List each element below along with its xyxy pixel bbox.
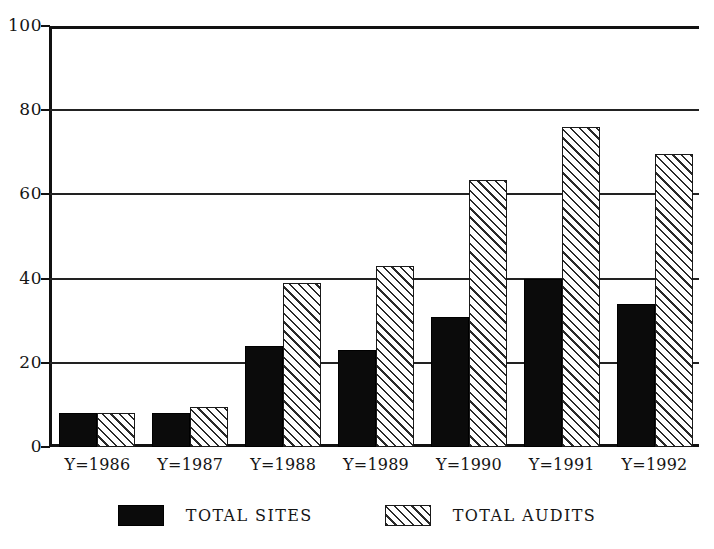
y-axis-tick-labels: 020406080100 (0, 0, 42, 549)
legend-label: TOTAL SITES (186, 506, 313, 525)
bar-group (59, 26, 135, 447)
legend-swatch-hatch-icon (385, 505, 431, 526)
x-tick-label: Y=1987 (140, 455, 240, 474)
legend-item[interactable]: TOTAL AUDITS (385, 505, 596, 526)
plot-area (49, 26, 699, 447)
y-tick-label: 20 (2, 354, 42, 371)
x-tick-label: Y=1988 (233, 455, 333, 474)
legend-swatch-solid-icon (118, 505, 164, 526)
legend-item[interactable]: TOTAL SITES (118, 505, 313, 526)
bar-total-audits[interactable] (469, 180, 507, 447)
bar-chart: 020406080100 Y=1986Y=1987Y=1988Y=1989Y=1… (0, 0, 714, 549)
bar-group (245, 26, 321, 447)
bar-total-audits[interactable] (376, 266, 414, 447)
bar-group (338, 26, 414, 447)
legend-label: TOTAL AUDITS (453, 506, 596, 525)
bar-group (617, 26, 693, 447)
bar-group (524, 26, 600, 447)
bar-group (431, 26, 507, 447)
bar-total-audits[interactable] (190, 407, 228, 447)
y-tick-label: 80 (2, 101, 42, 118)
bar-total-sites[interactable] (152, 413, 190, 447)
x-tick-label: Y=1992 (605, 455, 705, 474)
bar-total-sites[interactable] (245, 346, 283, 447)
bar-total-sites[interactable] (431, 317, 469, 448)
bar-total-sites[interactable] (59, 413, 97, 447)
y-tick-label: 40 (2, 270, 42, 287)
x-tick-label: Y=1989 (326, 455, 426, 474)
y-tick-label: 100 (2, 17, 42, 34)
bar-total-audits[interactable] (97, 413, 135, 447)
bar-total-audits[interactable] (283, 283, 321, 447)
bar-total-audits[interactable] (655, 154, 693, 447)
bar-total-audits[interactable] (562, 127, 600, 447)
chart-legend: TOTAL SITESTOTAL AUDITS (0, 498, 714, 532)
bar-total-sites[interactable] (617, 304, 655, 447)
y-tick-label: 0 (2, 438, 42, 455)
bar-total-sites[interactable] (524, 279, 562, 447)
y-tick-label: 60 (2, 185, 42, 202)
bars-layer (49, 26, 699, 447)
bar-group (152, 26, 228, 447)
x-tick-label: Y=1986 (47, 455, 147, 474)
x-axis-tick-labels: Y=1986Y=1987Y=1988Y=1989Y=1990Y=1991Y=19… (49, 455, 699, 481)
x-tick-label: Y=1991 (512, 455, 612, 474)
bar-total-sites[interactable] (338, 350, 376, 447)
x-tick-label: Y=1990 (419, 455, 519, 474)
